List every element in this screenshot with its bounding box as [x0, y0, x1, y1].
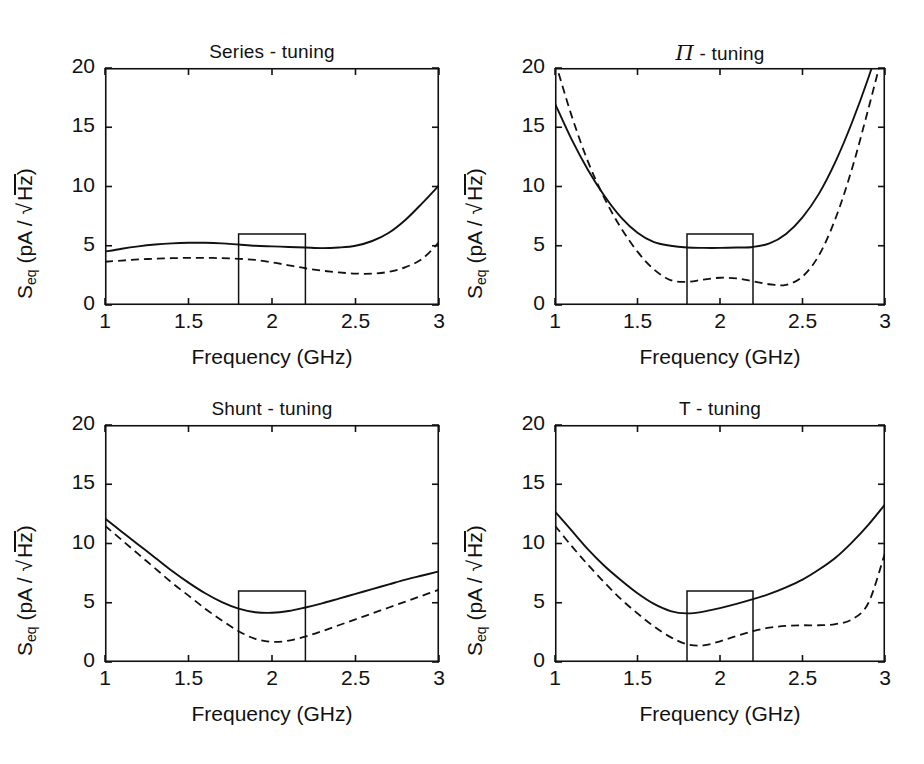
x-tick-label: 1.5: [608, 666, 668, 690]
plot-panel: [555, 425, 885, 662]
y-tick-label: 0: [43, 291, 95, 315]
y-tick-label: 10: [43, 173, 95, 197]
x-axis-label: Frequency (GHz): [105, 702, 439, 726]
axes-frame: [106, 426, 439, 662]
y-axis-label: Seq (pA / √Hz): [463, 525, 489, 656]
y-tick-label: 10: [43, 530, 95, 554]
y-tick-label: 20: [493, 411, 545, 435]
axes-frame: [556, 426, 885, 662]
spec-box: [687, 234, 753, 305]
noise-figure: Series - tuning11.522.5305101520Frequenc…: [0, 0, 924, 764]
panel-title: Shunt - tuning: [105, 398, 439, 420]
x-tick-label: 2: [242, 309, 302, 333]
y-tick-label: 15: [43, 113, 95, 137]
spec-box: [239, 591, 306, 662]
y-tick-label: 15: [493, 470, 545, 494]
panel-title: T - tuning: [555, 398, 885, 420]
y-tick-label: 5: [493, 589, 545, 613]
y-tick-label: 20: [43, 54, 95, 78]
curve-solid: [105, 519, 439, 613]
x-tick-label: 1.5: [608, 309, 668, 333]
plot-panel: [105, 68, 439, 305]
y-tick-label: 0: [493, 291, 545, 315]
y-axis-label: Seq (pA / √Hz): [13, 525, 39, 656]
x-tick-label: 2.5: [773, 309, 833, 333]
y-axis-label: Seq (pA / √Hz): [463, 168, 489, 299]
curve-dashed: [555, 44, 885, 285]
x-tick-label: 2.5: [326, 309, 386, 333]
x-tick-label: 2: [242, 666, 302, 690]
plot-panel: [105, 425, 439, 662]
y-tick-label: 5: [43, 232, 95, 256]
x-tick-label: 2: [690, 666, 750, 690]
x-tick-label: 2.5: [326, 666, 386, 690]
y-tick-label: 20: [43, 411, 95, 435]
plot-area: [555, 425, 885, 662]
plot-area: [555, 68, 885, 305]
x-axis-label: Frequency (GHz): [555, 345, 885, 369]
x-tick-label: 1.5: [159, 309, 219, 333]
curve-dashed: [555, 526, 885, 646]
y-tick-label: 0: [493, 648, 545, 672]
x-tick-label: 1.5: [159, 666, 219, 690]
axes-frame: [556, 69, 885, 305]
plot-area: [105, 68, 439, 305]
x-axis-label: Frequency (GHz): [105, 345, 439, 369]
y-tick-label: 15: [493, 113, 545, 137]
x-tick-label: 2.5: [773, 666, 833, 690]
panel-title: Series - tuning: [105, 41, 439, 63]
y-tick-label: 0: [43, 648, 95, 672]
panel-title: Π - tuning: [555, 41, 885, 65]
plot-panel: [555, 68, 885, 305]
x-tick-label: 3: [409, 309, 469, 333]
y-tick-label: 10: [493, 530, 545, 554]
curve-solid: [555, 504, 885, 613]
y-tick-label: 10: [493, 173, 545, 197]
x-tick-label: 3: [855, 666, 915, 690]
y-axis-label: Seq (pA / √Hz): [13, 168, 39, 299]
y-tick-label: 15: [43, 470, 95, 494]
y-tick-label: 5: [43, 589, 95, 613]
axes-frame: [106, 69, 439, 305]
y-tick-label: 20: [493, 54, 545, 78]
x-tick-label: 3: [855, 309, 915, 333]
y-tick-label: 5: [493, 232, 545, 256]
curve-solid: [105, 185, 439, 251]
x-axis-label: Frequency (GHz): [555, 702, 885, 726]
x-tick-label: 2: [690, 309, 750, 333]
x-tick-label: 3: [409, 666, 469, 690]
plot-area: [105, 425, 439, 662]
